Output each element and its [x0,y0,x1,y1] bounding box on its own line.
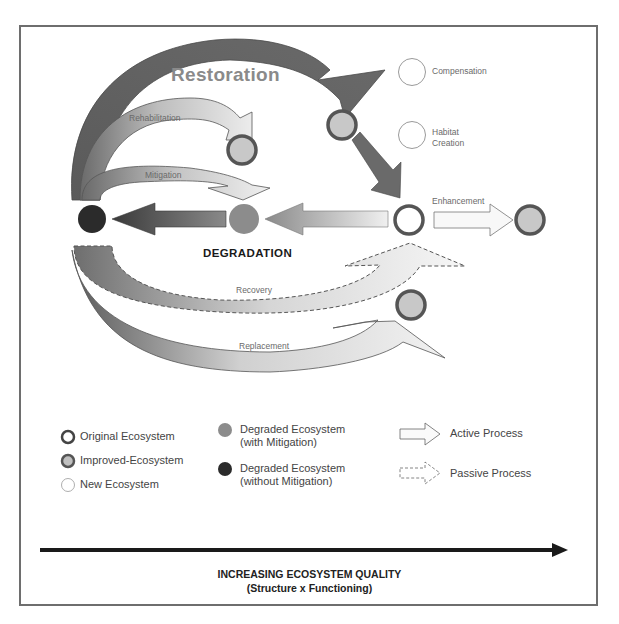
label-replacement: Replacement [239,341,289,351]
legend-degraded-without-icon [218,462,232,476]
label-habitat-creation-line2: Creation [432,138,464,149]
node-restoration-intermediate [328,111,356,139]
axis-subtitle: (Structure x Functioning) [0,581,619,595]
label-habitat-creation-line1: Habitat [432,127,464,138]
node-original-ecosystem [395,206,423,234]
legend-original-icon [62,431,74,443]
legend-new-label: New Ecosystem [80,478,159,491]
label-degradation: DEGRADATION [203,247,292,259]
node-compensation [399,59,426,86]
legend-improved-label: Improved-Ecosystem [80,454,183,467]
node-degraded-without-mitigation [78,205,106,233]
legend-degraded-with-line2: (with Mitigation) [240,436,345,449]
legend-degraded-with-icon [218,423,232,437]
label-enhancement: Enhancement [432,196,484,206]
legend-active-label: Active Process [450,427,523,440]
node-degraded-with-mitigation [229,204,259,234]
axis-title-block: INCREASING ECOSYSTEM QUALITY (Structure … [0,567,619,595]
legend-degraded-without-label: Degraded Ecosystem (without Mitigation) [240,462,345,488]
node-rehabilitated-ecosystem [228,136,256,164]
label-habitat-creation: Habitat Creation [432,127,464,149]
legend-passive-label: Passive Process [450,467,531,480]
enhancement-arrow [434,204,513,236]
legend-degraded-without-line2: (without Mitigation) [240,475,345,488]
label-compensation: Compensation [432,66,487,76]
node-habitat-creation [399,122,426,149]
axis-title: INCREASING ECOSYSTEM QUALITY [0,567,619,581]
legend-degraded-without-line1: Degraded Ecosystem [240,462,345,475]
node-enhanced-ecosystem [516,206,544,234]
legend-improved-icon [62,455,74,467]
label-rehabilitation: Rehabilitation [129,113,181,123]
label-mitigation: Mitigation [145,170,181,180]
ecosystem-process-diagram [0,0,619,624]
label-restoration: Restoration [171,64,280,86]
node-replacement-target [397,291,425,319]
legend-degraded-with-line1: Degraded Ecosystem [240,423,345,436]
degradation-arrow-severe [112,203,226,235]
degradation-arrow-mitigated [265,203,388,235]
legend-degraded-with-label: Degraded Ecosystem (with Mitigation) [240,423,345,449]
quality-axis-arrow [40,543,568,557]
legend-new-icon [62,479,75,492]
label-recovery: Recovery [236,285,272,295]
legend-active-process-icon [400,423,440,445]
legend-passive-process-icon [400,462,440,484]
restoration-descent-arrow [352,132,401,198]
legend-original-label: Original Ecosystem [80,430,175,443]
